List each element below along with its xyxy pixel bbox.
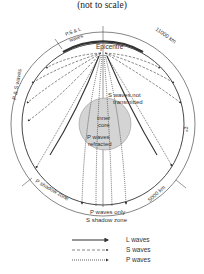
legend-item-p: P waves (72, 256, 192, 266)
legend-label-s: S waves (126, 246, 151, 253)
earth-seismic-diagram: Epicentre P,S & L waves 11000 km P & S w… (0, 0, 204, 274)
label-s-not-transmitted: S waves not (108, 92, 141, 98)
legend-item-s: S waves (72, 246, 192, 256)
label-p-waves-only: P waves only (90, 209, 125, 215)
label-s-not-transmitted-2: transmitted (113, 99, 143, 105)
legend-item-l: L waves (72, 236, 192, 246)
label-inner-core: inner (97, 115, 110, 121)
legend-label-l: L waves (126, 236, 150, 243)
legend: L waves S waves P waves (72, 236, 192, 266)
label-p-refracted: P waves (87, 134, 110, 140)
label-ps-waves: P & S waves (11, 68, 22, 100)
label-distance-top: 11000 km (154, 26, 177, 45)
legend-label-p: P waves (126, 256, 150, 263)
label-s-shadow-zone: S shadow zone (86, 217, 128, 223)
label-p-refracted-2: refracted (88, 141, 112, 147)
label-epicentre: Epicentre (96, 43, 124, 51)
label-inner-core-2: core (98, 122, 110, 128)
label-right-mark: «3 (183, 126, 189, 132)
label-p-shadow-zone: P shadow zone (35, 178, 70, 202)
